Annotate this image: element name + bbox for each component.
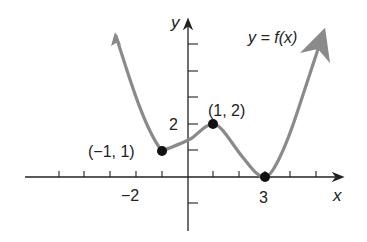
- curve-label: y = f(x): [247, 29, 297, 46]
- point-3-0: [260, 172, 270, 182]
- point-label-1-2: (1, 2): [208, 102, 245, 119]
- y-ticks: [188, 44, 198, 203]
- point-neg1-1: [157, 146, 167, 156]
- curve-left-arrow-icon: [111, 32, 121, 46]
- x-axis-label: x: [332, 186, 342, 205]
- point-label-neg1-1: (−1, 1): [88, 143, 135, 160]
- function-graph: y x y = f(x) −2 3 2 (−1, 1) (1, 2): [0, 0, 367, 242]
- tick-label-neg2: −2: [121, 187, 139, 204]
- y-axis-label: y: [170, 13, 181, 32]
- tick-label-2: 2: [169, 116, 178, 133]
- point-1-2: [208, 119, 218, 129]
- tick-label-3: 3: [259, 189, 268, 206]
